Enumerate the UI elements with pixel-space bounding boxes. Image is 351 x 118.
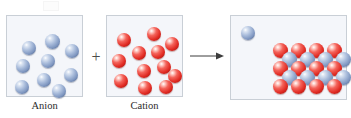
cation-caption: Cation xyxy=(106,100,183,111)
anion-sphere-6 xyxy=(64,68,78,82)
lattice-red-r4-c2 xyxy=(309,79,324,94)
anion-sphere-7 xyxy=(15,80,29,94)
anion-sphere-0 xyxy=(22,41,36,55)
lattice-red-r4-c3 xyxy=(327,79,342,94)
plus-operator: + xyxy=(88,48,104,66)
cation-sphere-1 xyxy=(147,27,161,41)
anion-sphere-3 xyxy=(41,54,55,68)
free-blue-sphere-0 xyxy=(241,26,255,40)
lattice-red-r4-c0 xyxy=(273,79,288,94)
cation-panel xyxy=(106,15,183,97)
cation-sphere-0 xyxy=(117,33,131,47)
anion-panel xyxy=(6,15,83,97)
cation-sphere-10 xyxy=(138,81,152,95)
anion-sphere-1 xyxy=(45,34,60,49)
anion-sphere-8 xyxy=(52,84,66,98)
cation-sphere-3 xyxy=(132,46,146,60)
anion-sphere-2 xyxy=(65,44,79,58)
cation-sphere-4 xyxy=(151,45,165,59)
cation-sphere-5 xyxy=(112,54,126,68)
cation-sphere-6 xyxy=(137,64,151,78)
cation-sphere-2 xyxy=(165,37,179,51)
anion-caption: Anion xyxy=(6,100,83,111)
ionic-lattice-formation-figure: Anion + Cation xyxy=(0,0,351,118)
anion-sphere-4 xyxy=(16,59,30,73)
cation-sphere-9 xyxy=(114,74,128,88)
reaction-arrow-icon xyxy=(190,50,224,62)
anion-sphere-5 xyxy=(37,73,51,87)
crystal-lattice-panel xyxy=(230,15,347,100)
scan-artifact xyxy=(43,1,59,11)
lattice-red-r4-c1 xyxy=(291,79,306,94)
cation-sphere-11 xyxy=(159,80,173,94)
